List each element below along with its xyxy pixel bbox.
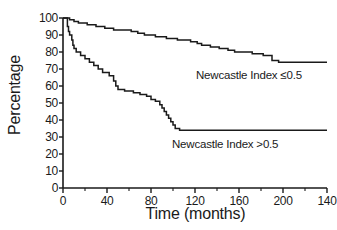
series-annotation-newcastle-index-low: Newcastle Index ≤0.5 — [196, 69, 302, 81]
series-annotation-newcastle-index-high: Newcastle Index >0.5 — [172, 138, 278, 150]
x-axis-title: Time (months) — [63, 205, 328, 223]
